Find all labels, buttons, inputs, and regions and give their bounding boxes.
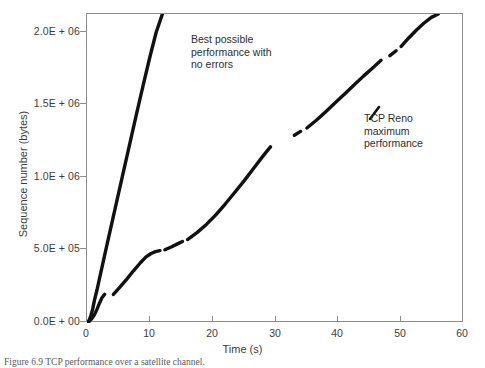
series-segment-tcp-reno-6 (390, 51, 396, 56)
series-segment-tcp-reno-2 (165, 241, 183, 249)
y-tick-label: 1.0E + 06 (34, 170, 80, 182)
x-tick-label: 30 (269, 327, 281, 339)
x-tick-label: 10 (143, 327, 155, 339)
x-tick-mark (400, 316, 401, 322)
series-best-possible-performance (87, 14, 162, 323)
series-segment-ideal (87, 14, 162, 323)
figure-caption: Figure 6.9 TCP performance over a satell… (4, 357, 474, 368)
x-tick-mark (337, 316, 338, 322)
x-tick-label: 0 (83, 327, 89, 339)
y-axis-title: Sequence number (bytes) (17, 89, 29, 259)
x-tick-mark (86, 316, 87, 322)
y-tick-label: 2.0E + 06 (34, 25, 80, 37)
x-tick-label: 20 (206, 327, 218, 339)
figure-container: 2.0E + 06 1.5E + 06 1.0E + 06 5.0E + 05 … (0, 0, 485, 368)
series-segment-tcp-reno-4 (294, 131, 300, 135)
series-segment-tcp-reno-3 (188, 147, 271, 240)
x-tick-mark (149, 316, 150, 322)
y-tick-label: 5.0E + 05 (34, 242, 80, 254)
series-segment-tcp-reno-1 (113, 251, 160, 295)
x-axis-title: Time (s) (0, 343, 485, 355)
y-tick-label: 1.5E + 06 (34, 97, 80, 109)
annotation-tcp-reno-maximum-performance: TCP Reno maximum performance (364, 112, 474, 150)
y-tick-label: 0.0E + 00 (34, 315, 80, 327)
x-tick-mark (212, 316, 213, 322)
x-tick-label: 50 (394, 327, 406, 339)
annotation-best-possible-performance: Best possible performance with no errors (191, 33, 311, 71)
series-segment-tcp-reno-7 (401, 14, 438, 46)
x-tick-label: 40 (331, 327, 343, 339)
leader-line-ideal (179, 31, 188, 38)
x-tick-mark (275, 316, 276, 322)
x-tick-label: 60 (456, 327, 468, 339)
x-tick-mark (462, 316, 463, 322)
y-axis-ticks: 2.0E + 06 1.5E + 06 1.0E + 06 5.0E + 05 … (0, 0, 80, 368)
